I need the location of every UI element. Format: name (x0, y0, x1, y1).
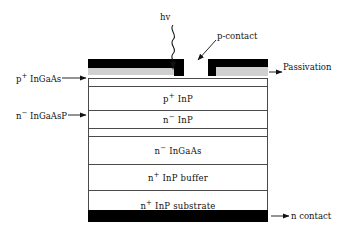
passivation-film-right (216, 67, 268, 76)
diagram-canvas: p+ InP n− InP n− InGaAs n+ InP buffer n+… (0, 0, 341, 234)
n-contact-metal (88, 210, 268, 222)
passivation-film-left (88, 67, 174, 75)
p-contact-metal-left (88, 59, 184, 68)
label-n-contact: n contact (291, 211, 331, 221)
p-contact-metal-left-foot (174, 59, 184, 76)
layer-n-inp-buffer: n+ InP buffer (88, 164, 268, 190)
label-p-ingaas: p+ InGaAs (16, 74, 61, 84)
label-hv: hv (160, 12, 170, 22)
layer-n-ingaasp (88, 128, 268, 136)
layer-label-p-inp: p+ InP (163, 94, 193, 104)
layer-n-ingaas: n− InGaAs (88, 136, 268, 164)
label-passivation: Passivation (283, 62, 331, 72)
label-p-contact: p-contact (217, 31, 257, 41)
layer-label-n-inp-buffer: n+ InP buffer (148, 173, 208, 183)
p-contact-leader (198, 40, 216, 60)
layer-label-n-ingaas: n− InGaAs (154, 146, 201, 156)
device-stack: p+ InP n− InP n− InGaAs n+ InP buffer n+… (88, 58, 268, 222)
layer-n-inp: n− InP (88, 110, 268, 128)
layer-p-inp: p+ InP (88, 86, 268, 110)
layer-label-n-inp: n− InP (163, 115, 193, 125)
layer-p-ingaas-cap (88, 78, 268, 86)
label-n-ingaasp: n− InGaAsP (16, 111, 67, 121)
